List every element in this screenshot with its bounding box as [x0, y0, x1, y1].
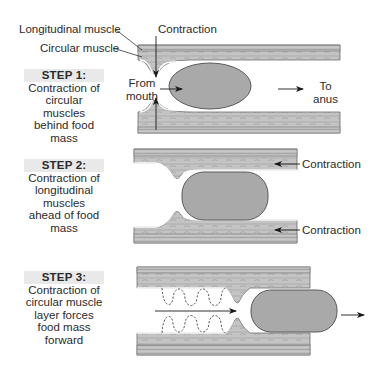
- label-mouth: mouth: [126, 90, 158, 102]
- label-contraction-step1: Contraction: [158, 23, 217, 35]
- step1-line: behind food: [25, 119, 103, 132]
- step3-line: circular muscle: [25, 296, 103, 309]
- step2-description: STEP 2: Contraction of longitudinal musc…: [25, 159, 103, 234]
- label-to-anus: To anus: [313, 80, 338, 105]
- step2-line: longitudinal: [25, 184, 103, 197]
- label-to: To: [319, 80, 331, 92]
- step1-line: mass: [25, 132, 103, 145]
- step2-heading: STEP 2:: [24, 159, 104, 172]
- step1-line: circular muscles: [25, 94, 103, 119]
- step2-line: muscles: [25, 197, 103, 210]
- wave-top-dashed: [162, 288, 226, 306]
- step3-description: STEP 3: Contraction of circular muscle l…: [25, 271, 103, 346]
- label-contraction-step2-top: Contraction: [302, 158, 361, 170]
- step3-food-mass: [251, 290, 337, 332]
- label-contraction-step2-bottom: Contraction: [302, 224, 361, 236]
- step3-heading: STEP 3:: [24, 271, 104, 284]
- step1-food-mass: [169, 63, 251, 109]
- label-from-mouth: From mouth: [126, 77, 158, 102]
- step1-heading: STEP 1:: [24, 69, 104, 82]
- label-circular-muscle: Circular muscle: [40, 42, 119, 54]
- step2-line: mass: [25, 222, 103, 235]
- step2-food-mass: [182, 172, 268, 220]
- label-anus: anus: [313, 93, 338, 105]
- step3-line: Contraction of: [25, 284, 103, 297]
- step1-line: Contraction of: [25, 82, 103, 95]
- label-longitudinal-muscle: Longitudinal muscle: [19, 23, 121, 35]
- step1-description: STEP 1: Contraction of circular muscles …: [25, 69, 103, 144]
- step3-line: forward: [25, 334, 103, 347]
- step3-line: layer forces: [25, 309, 103, 322]
- step2-line: ahead of food: [25, 209, 103, 222]
- step3-line: food mass: [25, 321, 103, 334]
- wave-bottom-dashed: [162, 316, 226, 334]
- step2-line: Contraction of: [25, 172, 103, 185]
- label-from: From: [129, 77, 156, 89]
